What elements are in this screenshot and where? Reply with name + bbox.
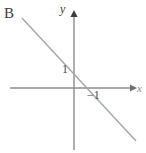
panel-label: B [4, 6, 14, 21]
x-intercept-tick-label: −1 [87, 89, 100, 101]
x-axis-arrow-icon [130, 84, 137, 91]
y-axis-label: y [60, 3, 65, 15]
x-axis-label: x [137, 83, 142, 94]
data-line-series-1 [22, 18, 136, 141]
plot-canvas [0, 0, 146, 153]
y-intercept-tick-label: 1 [62, 63, 68, 75]
y-axis-arrow-icon [70, 10, 77, 17]
coordinate-plane-figure: B y x 1 −1 [0, 0, 146, 153]
